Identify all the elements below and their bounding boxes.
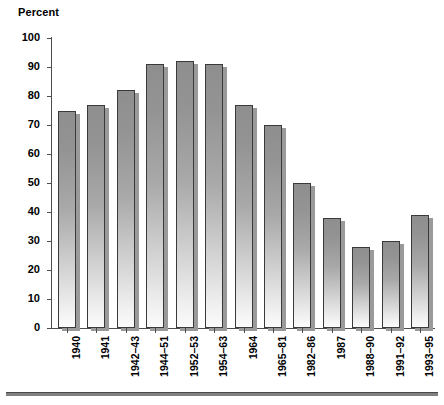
x-tick-mark — [96, 328, 97, 333]
y-tick-label: 60 — [28, 147, 40, 160]
x-tick-label: 1991–92 — [395, 336, 406, 377]
x-tick-mark — [214, 328, 215, 333]
x-tick-mark — [126, 328, 127, 333]
bar — [323, 38, 341, 328]
bar-body — [235, 105, 253, 328]
x-tick-mark — [332, 328, 333, 333]
y-axis-ticks: 1009080706050403020100 — [0, 0, 52, 405]
bar-chart: Percent 1009080706050403020100 194019411… — [0, 0, 444, 405]
x-tick-mark — [67, 328, 68, 333]
bar — [87, 38, 105, 328]
x-tick-label: 1964 — [248, 336, 259, 359]
x-tick-mark — [391, 328, 392, 333]
x-tick-mark — [155, 328, 156, 333]
x-tick-label: 1941 — [100, 336, 111, 359]
bar-series — [52, 38, 435, 328]
x-tick-label: 1942–43 — [130, 336, 141, 377]
bar — [382, 38, 400, 328]
x-tick-label: 1954–63 — [218, 336, 229, 377]
bar-body — [146, 64, 164, 328]
x-tick-label: 1982–86 — [306, 336, 317, 377]
y-tick-label: 30 — [28, 234, 40, 247]
bar — [411, 38, 429, 328]
bar-body — [382, 241, 400, 328]
x-tick-mark — [273, 328, 274, 333]
y-tick-label: 20 — [28, 263, 40, 276]
bar — [352, 38, 370, 328]
x-tick-mark — [302, 328, 303, 333]
y-tick-label: 90 — [28, 60, 40, 73]
bar-body — [117, 90, 135, 328]
x-tick-mark — [244, 328, 245, 333]
footer-rule — [6, 392, 438, 396]
bar-body — [352, 247, 370, 328]
y-tick-label: 100 — [22, 31, 40, 44]
y-tick-label: 10 — [28, 292, 40, 305]
y-tick-label: 0 — [34, 321, 40, 334]
bar — [176, 38, 194, 328]
x-tick-label: 1993–95 — [424, 336, 435, 377]
bar-body — [87, 105, 105, 328]
bar-body — [293, 183, 311, 328]
bar-body — [58, 111, 76, 329]
x-tick-label: 1965–81 — [277, 336, 288, 377]
x-tick-mark — [420, 328, 421, 333]
bar — [293, 38, 311, 328]
bar — [146, 38, 164, 328]
x-tick-label: 1940 — [71, 336, 82, 359]
x-tick-label: 1952–53 — [189, 336, 200, 377]
bar-body — [323, 218, 341, 328]
bar — [264, 38, 282, 328]
x-tick-label: 1987 — [336, 336, 347, 359]
x-tick-label: 1944–51 — [159, 336, 170, 377]
bar — [205, 38, 223, 328]
bar-body — [205, 64, 223, 328]
x-tick-mark — [185, 328, 186, 333]
y-tick-label: 40 — [28, 205, 40, 218]
bar-body — [176, 61, 194, 328]
bar — [58, 38, 76, 328]
bar-body — [264, 125, 282, 328]
y-tick-label: 70 — [28, 118, 40, 131]
bar — [117, 38, 135, 328]
bar-body — [411, 215, 429, 328]
bar — [235, 38, 253, 328]
x-tick-label: 1988–90 — [365, 336, 376, 377]
x-tick-mark — [361, 328, 362, 333]
y-tick-label: 50 — [28, 176, 40, 189]
y-tick-label: 80 — [28, 89, 40, 102]
